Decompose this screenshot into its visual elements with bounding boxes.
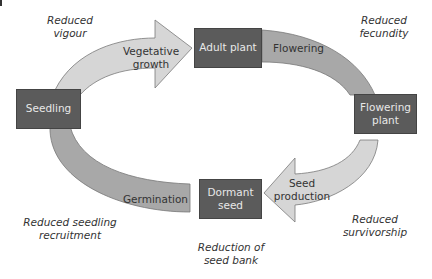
label-seed-production: Seed production: [272, 177, 332, 203]
note-reduction-seed-bank: Reduction of seed bank: [195, 241, 267, 267]
label-germination: Germination: [118, 193, 188, 206]
corner-mark: [0, 0, 2, 6]
life-cycle-diagram: Seedling Adult plant Flowering plant Dor…: [0, 0, 432, 279]
stage-seedling: Seedling: [16, 89, 81, 129]
note-reduced-survivorship: Reduced survivorship: [338, 213, 412, 239]
stage-dormant-seed: Dormant seed: [199, 179, 262, 219]
stage-adult-plant: Adult plant: [194, 28, 262, 68]
stage-flowering-plant: Flowering plant: [354, 94, 417, 134]
label-flowering: Flowering: [273, 42, 333, 55]
note-reduced-fecundity: Reduced fecundity: [352, 14, 416, 40]
note-reduced-vigour: Reduced vigour: [45, 14, 95, 40]
label-vegetative-growth: Vegetative growth: [120, 45, 182, 71]
note-reduced-seedling-recruitment: Reduced seedling recruitment: [20, 216, 120, 242]
